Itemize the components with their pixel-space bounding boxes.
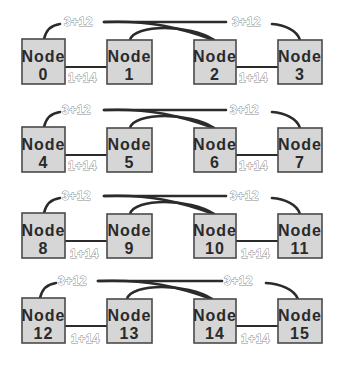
link-label-mid-right: 1+14: [241, 332, 270, 346]
link-label-top-right: 3+12: [224, 274, 253, 288]
link-label-top-left: 3+12: [64, 15, 93, 29]
svg-text:13: 13: [120, 325, 140, 342]
node-14[interactable]: Node 14: [193, 299, 237, 343]
wire-curve-node0-to-node2-cross: [104, 22, 214, 40]
wire-curve-node5-to-node6: [130, 116, 214, 128]
svg-text:Node: Node: [22, 136, 66, 153]
svg-text:Node: Node: [278, 307, 322, 324]
link-label-top-right: 3+12: [232, 15, 261, 29]
svg-text:12: 12: [34, 325, 54, 342]
node-9[interactable]: Node 9: [107, 214, 152, 258]
svg-text:10: 10: [205, 240, 225, 257]
row-3: 3+12 3+12 1+14 1+14 Node 12 Node 13 Node…: [22, 274, 323, 346]
svg-text:Node: Node: [108, 48, 152, 65]
svg-text:Node: Node: [278, 136, 322, 153]
svg-text:Node: Node: [22, 48, 66, 65]
svg-text:14: 14: [205, 325, 225, 342]
wire-curve-node13-to-node14: [127, 287, 212, 299]
svg-text:8: 8: [39, 240, 49, 257]
link-label-top-left: 3+12: [62, 189, 91, 203]
node-1[interactable]: Node 1: [107, 40, 152, 84]
link-label-mid-left: 1+14: [71, 332, 100, 346]
svg-text:Node: Node: [108, 222, 152, 239]
svg-text:5: 5: [125, 154, 135, 171]
svg-text:4: 4: [39, 154, 49, 171]
wire-curve-cross: [104, 110, 214, 128]
link-label-mid-right: 1+14: [241, 247, 270, 261]
node-6[interactable]: Node 6: [193, 128, 237, 172]
link-label-mid-left: 1+14: [68, 71, 97, 85]
svg-text:1: 1: [125, 66, 135, 83]
node-12[interactable]: Node 12: [22, 298, 66, 343]
svg-text:2: 2: [210, 66, 220, 83]
svg-text:6: 6: [210, 154, 220, 171]
node-5[interactable]: Node 5: [107, 128, 152, 172]
node-10[interactable]: Node 10: [193, 214, 237, 258]
svg-text:Node: Node: [193, 222, 237, 239]
wire-curve-cross: [98, 281, 212, 299]
link-label-mid-right: 1+14: [239, 159, 268, 173]
svg-text:Node: Node: [22, 307, 66, 324]
svg-text:Node: Node: [193, 307, 237, 324]
wire-label-to-node11: [272, 198, 300, 214]
link-label-top-right: 3+12: [230, 103, 259, 117]
link-label-mid-left: 1+14: [68, 159, 97, 173]
wire-node4-label: [44, 112, 60, 127]
node-4[interactable]: Node 4: [22, 127, 66, 172]
node-interconnect-diagram: 3+12 3+12 1+14 1+14 Node 0 Node 1 Node 2…: [0, 0, 340, 366]
svg-text:Node: Node: [22, 222, 66, 239]
row-1: 3+12 3+12 1+14 1+14 Node 4 Node 5 Node 6…: [22, 103, 323, 173]
link-label-mid-right: 1+14: [239, 71, 268, 85]
wire-label-to-node15: [266, 283, 298, 299]
wire-node0-label: [44, 24, 60, 39]
svg-text:9: 9: [125, 240, 135, 257]
node-2[interactable]: Node 2: [193, 40, 237, 84]
wire-node12-label: [40, 283, 56, 298]
svg-text:7: 7: [295, 154, 305, 171]
row-2: 3+12 3+12 1+14 1+14 Node 8 Node 9 Node 1…: [22, 189, 323, 261]
wire-node8-label: [44, 198, 60, 213]
wire-curve-cross: [104, 196, 214, 214]
svg-text:Node: Node: [193, 136, 237, 153]
wire-curve-node1-to-node2: [130, 28, 214, 40]
svg-text:Node: Node: [108, 307, 152, 324]
node-0[interactable]: Node 0: [22, 39, 66, 84]
svg-text:Node: Node: [193, 48, 237, 65]
svg-text:11: 11: [291, 240, 310, 257]
node-3[interactable]: Node 3: [278, 40, 322, 84]
row-0: 3+12 3+12 1+14 1+14 Node 0 Node 1 Node 2…: [22, 15, 323, 85]
node-7[interactable]: Node 7: [278, 128, 322, 172]
link-label-mid-left: 1+14: [70, 247, 99, 261]
link-label-top-left: 3+12: [58, 274, 87, 288]
svg-text:Node: Node: [278, 48, 322, 65]
wire-curve-node9-to-node10: [130, 202, 214, 214]
wire-label-to-node3: [272, 24, 300, 40]
svg-text:Node: Node: [108, 136, 152, 153]
svg-text:3: 3: [295, 66, 305, 83]
link-label-top-left: 3+12: [62, 103, 91, 117]
node-15[interactable]: Node 15: [278, 299, 322, 343]
link-label-top-right: 3+12: [230, 189, 259, 203]
wire-label-to-node7: [272, 112, 300, 128]
node-8[interactable]: Node 8: [22, 213, 66, 258]
svg-text:Node: Node: [278, 222, 322, 239]
svg-text:0: 0: [39, 66, 49, 83]
svg-text:15: 15: [290, 325, 310, 342]
node-11[interactable]: Node 11: [278, 214, 322, 258]
node-13[interactable]: Node 13: [107, 299, 152, 343]
